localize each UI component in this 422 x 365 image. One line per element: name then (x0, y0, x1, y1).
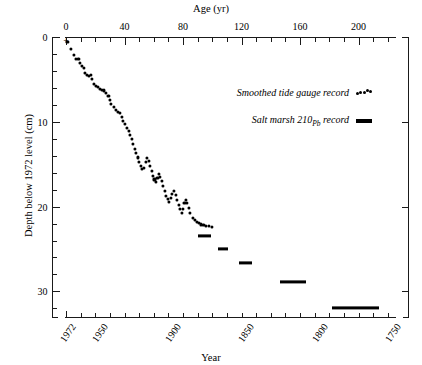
tide-gauge-data-point (180, 211, 183, 214)
tide-gauge-data-point (181, 208, 184, 211)
tide-gauge-data-point (130, 137, 133, 140)
depth-axis-tick (53, 156, 58, 157)
legend-label-salt-marsh: Salt marsh 210Pb record (252, 114, 349, 128)
year-axis-tick (329, 313, 330, 317)
depth-axis-tick (53, 224, 58, 225)
tide-gauge-data-point (147, 159, 150, 162)
salt-marsh-data-bar (198, 235, 211, 238)
year-axis-tick (81, 313, 82, 317)
year-axis-tick (242, 313, 243, 317)
tide-gauge-data-point (108, 98, 111, 101)
year-axis-tick (168, 313, 169, 317)
age-axis-tick (344, 38, 345, 42)
legend-label-salt-marsh-suffix: record (321, 114, 349, 125)
legend-label-salt-marsh-subscript: Pb (312, 119, 320, 128)
year-axis-tick (66, 311, 67, 318)
y-axis-title: Depth below 1972 level (cm) (23, 76, 34, 276)
chart-legend: Smoothed tide gauge record Salt marsh 21… (196, 84, 372, 142)
tide-gauge-data-point (170, 192, 173, 195)
year-axis-tick-label: 1972 (58, 321, 78, 344)
year-axis-tick-label: 1900 (163, 321, 183, 344)
tide-gauge-data-point (138, 160, 141, 163)
age-axis-tick-label: 80 (178, 21, 188, 32)
tide-gauge-data-point (211, 225, 214, 228)
legend-label-tide-gauge: Smoothed tide gauge record (237, 87, 349, 98)
year-axis-tick-label: 1800 (309, 321, 329, 344)
year-axis-tick (110, 313, 111, 317)
tide-gauge-data-point (149, 164, 152, 167)
age-axis-tick (212, 38, 213, 42)
year-axis-tick (285, 313, 286, 317)
age-axis-tick (110, 38, 111, 42)
year-axis-tick (256, 313, 257, 317)
year-axis-tick (300, 313, 301, 317)
legend-swatch-bar-icon (356, 119, 372, 122)
depth-axis-tick (53, 71, 58, 72)
tide-gauge-data-point (176, 198, 179, 201)
age-axis-tick (198, 38, 199, 42)
age-axis-tick-label: 0 (64, 21, 69, 32)
tide-gauge-data-point (70, 47, 73, 50)
tide-gauge-data-point (120, 115, 123, 118)
year-axis-tick (154, 313, 155, 317)
year-axis-tick (373, 313, 374, 317)
depth-axis-tick (53, 190, 58, 191)
year-axis-tick (271, 313, 272, 317)
right-spine-tick (402, 37, 409, 38)
depth-axis-tick (53, 88, 58, 89)
age-axis-tick-label: 40 (120, 21, 130, 32)
tide-gauge-data-point (91, 78, 94, 81)
tide-gauge-data-point (187, 207, 190, 210)
depth-axis-tick (53, 105, 58, 106)
salt-marsh-data-bar (239, 261, 252, 264)
depth-axis-tick-label: 20 (38, 201, 48, 212)
tide-gauge-data-point (160, 180, 163, 183)
tide-gauge-data-point (189, 212, 192, 215)
bottom-axis-line (65, 317, 396, 318)
depth-axis-tick (53, 308, 58, 309)
left-spine-bottom-cap (52, 317, 58, 318)
year-axis-tick (359, 313, 360, 317)
right-spine-tick (402, 122, 409, 123)
tide-gauge-data-point (162, 185, 165, 188)
legend-entry-salt-marsh: Salt marsh 210Pb record (196, 113, 372, 129)
year-axis-tick (212, 313, 213, 317)
age-axis-tick (168, 38, 169, 42)
depth-axis-tick-label: 30 (38, 286, 48, 297)
age-axis-tick (300, 38, 301, 45)
depth-axis-tick (53, 54, 58, 55)
year-axis-tick (125, 313, 126, 317)
year-axis-tick-label: 1950 (90, 321, 110, 344)
tide-gauge-data-point (133, 147, 136, 150)
age-axis-tick (183, 38, 184, 45)
chart-figure: Age (yr) Depth below 1972 level (cm) Yea… (0, 0, 422, 365)
tide-gauge-data-point (77, 58, 80, 61)
tide-gauge-data-point (142, 166, 145, 169)
age-axis-tick (81, 38, 82, 42)
depth-axis-tick (53, 173, 58, 174)
year-axis-tick (227, 313, 228, 317)
salt-marsh-data-bar (280, 280, 306, 283)
age-axis-tick (388, 38, 389, 42)
bottom-axis-title: Year (0, 352, 422, 363)
tide-gauge-data-point (163, 190, 166, 193)
age-axis-tick (373, 38, 374, 42)
depth-axis-tick-label: 10 (38, 116, 48, 127)
top-axis-title: Age (yr) (0, 3, 422, 14)
tide-gauge-data-point (89, 74, 92, 77)
salt-marsh-data-bar (332, 306, 379, 309)
tide-gauge-data-point (136, 156, 139, 159)
tide-gauge-data-point (132, 142, 135, 145)
depth-axis-tick (53, 291, 60, 292)
tide-gauge-data-point (72, 53, 75, 56)
year-axis-tick (198, 313, 199, 317)
age-axis-tick (154, 38, 155, 42)
age-axis-tick-label: 200 (351, 21, 366, 32)
year-axis-tick (139, 313, 140, 317)
tide-gauge-data-point (169, 197, 172, 200)
tide-gauge-data-point (135, 152, 138, 155)
right-spine-tick (402, 207, 409, 208)
legend-entry-tide-gauge: Smoothed tide gauge record (196, 84, 372, 100)
tide-gauge-data-point (159, 175, 162, 178)
age-axis-tick (256, 38, 257, 42)
